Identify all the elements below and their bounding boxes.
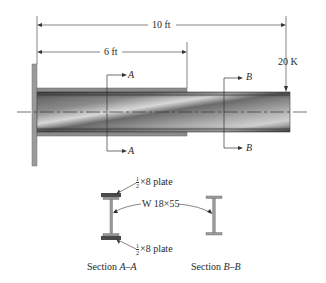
section-bb-caption: Section B–B: [191, 262, 241, 272]
top-plate-fraction: 1 2: [136, 176, 139, 189]
section-aa-shape: [101, 193, 121, 240]
bottom-plate-fraction: 1 2: [136, 243, 139, 256]
fixed-wall: [32, 64, 37, 166]
section-b-top-label: B: [246, 72, 252, 82]
section-a-top-label: A: [128, 70, 134, 80]
load-label: 20 K: [278, 57, 298, 67]
bottom-cover-plate: [37, 132, 187, 136]
top-cover-plate: [37, 88, 187, 92]
shape-label: W 18×55: [142, 199, 179, 209]
dimension-6ft-label: 6 ft: [104, 47, 118, 57]
section-aa-caption: Section A–A: [87, 262, 137, 272]
section-a-bottom-label: A: [128, 146, 134, 156]
beam-diagram: [0, 0, 326, 283]
top-plate-label: 1 2 ×8 plate: [136, 176, 173, 189]
section-b-bottom-label: B: [246, 143, 252, 153]
section-bb-shape: [206, 196, 222, 235]
bottom-plate-label: 1 2 ×8 plate: [136, 243, 173, 256]
dimension-10ft-label: 10 ft: [152, 20, 171, 30]
